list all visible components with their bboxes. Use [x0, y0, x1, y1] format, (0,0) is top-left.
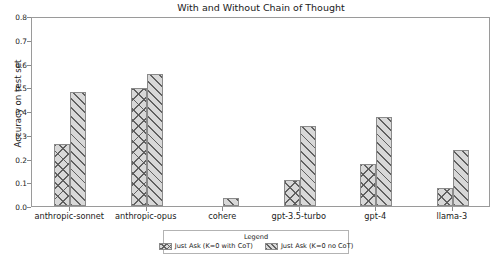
- legend-label: Just Ask (K=0 no CoT): [281, 242, 353, 250]
- bar: [453, 150, 469, 206]
- y-tick-mark: [27, 88, 31, 89]
- y-tick-mark: [27, 207, 31, 208]
- bar: [70, 92, 86, 206]
- bar: [360, 164, 376, 206]
- legend-entries: Just Ask (K=0 with CoT)Just Ask (K=0 no …: [168, 242, 344, 250]
- legend-entry: Just Ask (K=0 with CoT): [159, 242, 253, 250]
- x-tick-label: gpt-3.5-turbo: [271, 211, 326, 221]
- x-tick-label: cohere: [208, 211, 236, 221]
- y-tick-label: 0.4: [0, 108, 27, 117]
- bar: [147, 74, 163, 206]
- bars-layer: [32, 18, 489, 206]
- y-axis-label: Accuracy on test set: [13, 0, 25, 207]
- bar: [54, 144, 70, 206]
- y-tick-label: 0.1: [0, 179, 27, 188]
- y-tick-mark: [27, 41, 31, 42]
- chart-figure: With and Without Chain of Thought Accura…: [0, 0, 498, 262]
- y-tick-mark: [27, 65, 31, 66]
- chart-title: With and Without Chain of Thought: [30, 2, 492, 13]
- bar: [437, 188, 453, 206]
- y-tick-mark: [27, 112, 31, 113]
- y-tick-label: 0.6: [0, 60, 27, 69]
- bar: [300, 126, 316, 206]
- y-tick-label: 0.7: [0, 36, 27, 45]
- x-tick-label: gpt-4: [364, 211, 386, 221]
- x-tick-mark: [452, 207, 453, 211]
- y-tick-mark: [27, 17, 31, 18]
- x-tick-label: anthropic-sonnet: [34, 211, 104, 221]
- legend-title: Legend: [168, 233, 344, 241]
- x-tick-mark: [299, 207, 300, 211]
- y-tick-mark: [27, 160, 31, 161]
- y-tick-label: 0.8: [0, 13, 27, 22]
- x-tick-mark: [146, 207, 147, 211]
- legend-swatch-icon: [159, 243, 172, 250]
- legend-label: Just Ask (K=0 with CoT): [175, 242, 253, 250]
- x-tick-mark: [69, 207, 70, 211]
- x-tick-label: anthropic-opus: [115, 211, 177, 221]
- x-tick-mark: [222, 207, 223, 211]
- x-tick-label: llama-3: [436, 211, 467, 221]
- y-tick-label: 0.0: [0, 203, 27, 212]
- bar: [131, 88, 147, 206]
- y-tick-mark: [27, 136, 31, 137]
- bar: [376, 117, 392, 206]
- y-tick-label: 0.5: [0, 84, 27, 93]
- bar: [284, 180, 300, 206]
- x-tick-mark: [375, 207, 376, 211]
- plot-area: [31, 17, 490, 207]
- y-tick-label: 0.2: [0, 155, 27, 164]
- y-tick-mark: [27, 183, 31, 184]
- bar: [223, 198, 239, 206]
- legend-entry: Just Ask (K=0 no CoT): [265, 242, 353, 250]
- legend-swatch-icon: [265, 243, 278, 250]
- y-tick-label: 0.3: [0, 131, 27, 140]
- chart-legend: Legend Just Ask (K=0 with CoT)Just Ask (…: [163, 230, 349, 254]
